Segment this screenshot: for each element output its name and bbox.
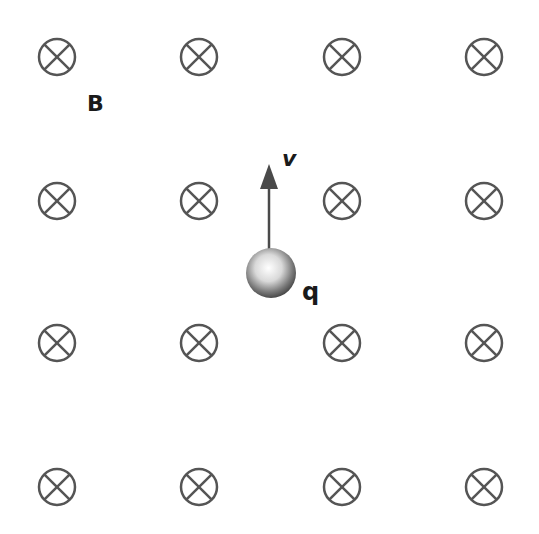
field-into-page-icon <box>324 469 360 505</box>
field-into-page-icon <box>39 183 75 219</box>
field-into-page-icon <box>39 469 75 505</box>
field-into-page-icon <box>324 325 360 361</box>
field-into-page-icon <box>39 39 75 75</box>
field-into-page-icon <box>181 469 217 505</box>
velocity-label-v: v <box>282 146 296 171</box>
field-into-page-icon <box>466 39 502 75</box>
diagram-canvas <box>0 0 539 534</box>
field-into-page-icon <box>466 469 502 505</box>
field-into-page-icon <box>181 39 217 75</box>
velocity-arrow <box>260 164 278 250</box>
field-into-page-icon <box>324 183 360 219</box>
charge-sphere <box>246 248 296 298</box>
charge-label-q: q <box>302 278 319 306</box>
field-into-page-icon <box>324 39 360 75</box>
field-into-page-icon <box>466 325 502 361</box>
field-into-page-icon <box>181 183 217 219</box>
field-label-b: B <box>87 91 104 116</box>
field-into-page-icon <box>181 325 217 361</box>
field-into-page-icon <box>39 325 75 361</box>
field-into-page-icon <box>466 183 502 219</box>
